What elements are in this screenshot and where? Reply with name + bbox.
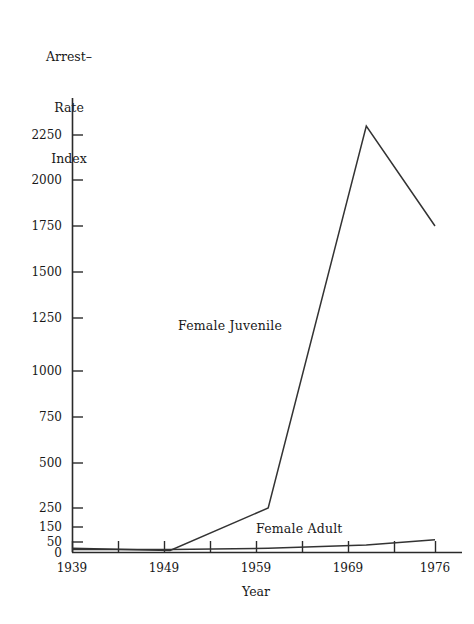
x-tick-label-1969: 1969 <box>318 561 378 575</box>
y-tick-label-2000: 2000 <box>10 173 62 187</box>
y-tick-label-1500: 1500 <box>10 265 62 279</box>
y-tick-label-1250: 1250 <box>10 311 62 325</box>
y-tick-label-1000: 1000 <box>10 364 62 378</box>
series-label-female-adult: Female Adult <box>256 521 343 536</box>
y-tick-label-150: 150 <box>10 520 62 534</box>
y-tick-label-750: 750 <box>10 410 62 424</box>
x-tick-label-1949: 1949 <box>134 561 194 575</box>
arrest-rate-index-chart: Arrest– Rate Index <box>0 0 474 624</box>
y-tick-label-500: 500 <box>10 456 62 470</box>
y-tick-label-2250: 2250 <box>10 128 62 142</box>
series-label-female-juvenile: Female Juvenile <box>178 318 282 333</box>
series-line-female-juvenile <box>72 126 435 550</box>
y-axis-ticks <box>72 135 83 542</box>
x-axis-ticks <box>73 541 436 552</box>
x-tick-label-1976: 1976 <box>405 561 465 575</box>
series-line-female-adult <box>72 540 435 550</box>
x-tick-label-1959: 1959 <box>226 561 286 575</box>
y-tick-label-0: 0 <box>10 546 62 560</box>
plot-area <box>0 0 474 624</box>
x-axis-title: Year <box>196 583 316 600</box>
y-tick-label-1750: 1750 <box>10 219 62 233</box>
y-tick-label-250: 250 <box>10 501 62 515</box>
x-tick-label-1939: 1939 <box>42 561 102 575</box>
